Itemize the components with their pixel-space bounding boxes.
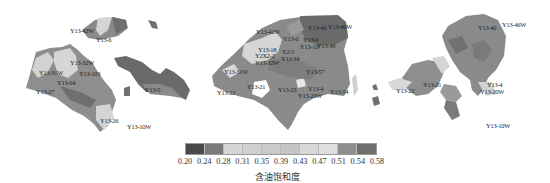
well-label: Y13-64	[57, 80, 75, 86]
well-label: Y13-32W	[255, 60, 279, 66]
well-label: Y13-103	[79, 71, 100, 77]
well-label: Y13-20W	[298, 93, 322, 99]
well-label: Y13-31W	[224, 69, 248, 75]
well-label: Y13-40	[308, 25, 326, 31]
colorbar-ticks: 0.200.240.280.310.350.390.430.470.510.54…	[175, 157, 395, 167]
colorbar-swatch	[224, 144, 243, 154]
well-label: Y13-23	[278, 87, 296, 93]
well-label: Y13-20W	[480, 89, 504, 95]
well-label: Y13-22	[217, 90, 235, 96]
colorbar-tick-label: 0.39	[274, 157, 289, 166]
well-label: Y13-10	[300, 44, 318, 50]
well-label: Y13-27	[36, 89, 54, 95]
well-label: Y13-26	[100, 118, 118, 124]
colorbar-swatch	[281, 144, 300, 154]
well-label: Y13-46W	[502, 22, 526, 28]
well-label: Y13-10W	[127, 124, 151, 130]
colorbar	[185, 143, 377, 155]
well-label: Y13-42W	[256, 29, 280, 35]
colorbar-tick-label: 0.43	[293, 157, 308, 166]
well-label: Y13-21	[247, 84, 265, 90]
colorbar-tick-label: 0.28	[216, 157, 231, 166]
well-label: Y13-6	[96, 37, 111, 43]
colorbar-tick-label: 0.58	[370, 157, 385, 166]
well-label: Y13-42W	[70, 28, 94, 34]
well-label: Y13-5	[145, 87, 160, 93]
well-label: Y13-10W	[486, 123, 510, 129]
well-label: Y13-57	[306, 69, 324, 75]
colorbar-tick-label: 0.31	[235, 157, 250, 166]
colorbar-swatch	[205, 144, 224, 154]
colorbar-swatch	[186, 144, 205, 154]
colorbar-swatch	[338, 144, 357, 154]
colorbar-title: 含油饱和度	[255, 170, 300, 183]
well-label: Y13-21	[423, 82, 441, 88]
well-label: Y13-22	[396, 88, 414, 94]
colorbar-swatch	[357, 144, 376, 154]
map-polygons	[0, 0, 550, 135]
well-label: Y13-31W	[39, 70, 63, 76]
well-label: Y13-6	[283, 36, 298, 42]
well-label: Y13-40	[478, 25, 496, 31]
saturation-map: Y13-42WY13-6Y13-32WY13-31WY13-103Y13-64Y…	[0, 0, 550, 135]
colorbar-tick-label: 0.20	[178, 157, 193, 166]
well-label: Y13-54	[330, 89, 348, 95]
colorbar-swatch	[319, 144, 338, 154]
colorbar-swatch	[300, 144, 319, 154]
colorbar-swatch	[262, 144, 281, 154]
well-label: Y13-32W	[70, 60, 94, 66]
colorbar-tick-label: 0.54	[351, 157, 366, 166]
colorbar-tick-label: 0.47	[312, 157, 327, 166]
colorbar-tick-label: 0.24	[197, 157, 212, 166]
colorbar-tick-label: 0.35	[255, 157, 270, 166]
well-label: Y13-39	[317, 43, 335, 49]
well-label: Y13-46W	[328, 24, 352, 30]
colorbar-swatch	[243, 144, 262, 154]
colorbar-tick-label: 0.51	[331, 157, 346, 166]
well-label: Y13-34	[281, 56, 299, 62]
